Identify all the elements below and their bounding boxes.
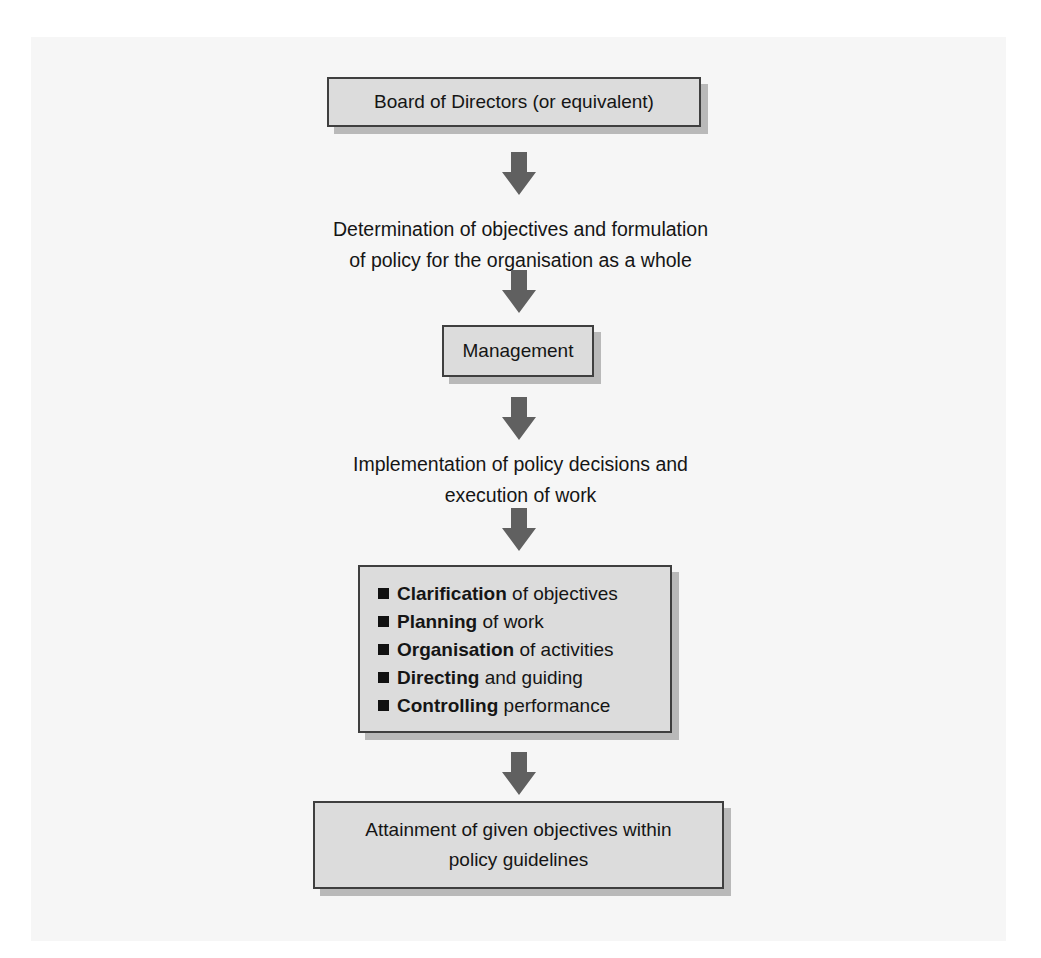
square-bullet-icon xyxy=(378,700,389,711)
implementation-line-1: Implementation of policy decisions and xyxy=(0,449,1041,480)
board-of-directors-box: Board of Directors (or equivalent) xyxy=(327,77,701,127)
function-keyword: Directing xyxy=(397,667,479,688)
function-keyword: Clarification xyxy=(397,583,507,604)
down-arrow-icon xyxy=(502,152,536,195)
board-of-directors-label: Board of Directors (or equivalent) xyxy=(374,87,654,117)
function-keyword: Planning xyxy=(397,611,477,632)
function-keyword: Organisation xyxy=(397,639,514,660)
function-item-planning: Planning of work xyxy=(378,608,670,636)
function-description: of work xyxy=(477,611,544,632)
attainment-line-2: policy guidelines xyxy=(449,845,588,875)
down-arrow-icon xyxy=(502,397,536,440)
determination-line-1: Determination of objectives and formulat… xyxy=(0,214,1041,245)
determination-text: Determination of objectives and formulat… xyxy=(0,214,1041,276)
management-label: Management xyxy=(463,336,574,366)
square-bullet-icon xyxy=(378,588,389,599)
implementation-text: Implementation of policy decisions and e… xyxy=(0,449,1041,511)
square-bullet-icon xyxy=(378,644,389,655)
down-arrow-icon xyxy=(502,508,536,551)
function-item-clarification: Clarification of objectives xyxy=(378,580,670,608)
function-item-controlling: Controlling performance xyxy=(378,692,670,720)
function-description: of objectives xyxy=(507,583,618,604)
function-description: of activities xyxy=(514,639,613,660)
implementation-line-2: execution of work xyxy=(0,480,1041,511)
management-functions-box: Clarification of objectives Planning of … xyxy=(358,565,672,733)
square-bullet-icon xyxy=(378,672,389,683)
down-arrow-icon xyxy=(502,752,536,795)
function-keyword: Controlling xyxy=(397,695,498,716)
function-description: and guiding xyxy=(479,667,583,688)
square-bullet-icon xyxy=(378,616,389,627)
attainment-box: Attainment of given objectives within po… xyxy=(313,801,724,889)
function-description: performance xyxy=(498,695,610,716)
function-item-organisation: Organisation of activities xyxy=(378,636,670,664)
down-arrow-icon xyxy=(502,270,536,313)
management-box: Management xyxy=(442,325,594,377)
function-item-directing: Directing and guiding xyxy=(378,664,670,692)
attainment-line-1: Attainment of given objectives within xyxy=(365,815,671,845)
